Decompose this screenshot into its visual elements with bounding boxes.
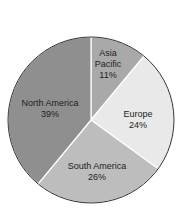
- label-name: Europe: [123, 109, 152, 119]
- label-pct: 26%: [88, 172, 106, 182]
- label-pct: 24%: [129, 120, 147, 130]
- label-name: Asia: [99, 48, 117, 58]
- label-name: South America: [68, 161, 127, 171]
- label-name: Pacific: [95, 59, 122, 69]
- pie-chart: Asia Pacific 11% Europe 24% South Americ…: [0, 0, 185, 209]
- label-pct: 11%: [99, 70, 116, 80]
- label-pct: 39%: [41, 109, 59, 119]
- label-name: North America: [21, 98, 78, 108]
